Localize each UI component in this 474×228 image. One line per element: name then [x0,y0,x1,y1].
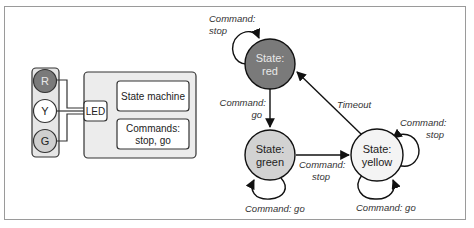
led-label: LED [86,106,105,117]
light-red: R [34,70,57,93]
state-yellow-line1: State: [363,143,392,155]
state-machine-box: State machine [117,81,189,111]
state-red-line1: State: [256,52,285,64]
commands-label-line1: Commands: [126,123,180,134]
state-machine-label: State machine [121,91,185,102]
light-red-label: R [41,75,49,87]
commands-label-line2: stop, go [135,135,171,146]
state-green-line1: State: [256,143,285,155]
label-yellow-to-red: Timeout [337,99,372,110]
label-yellow-self-stop-line1: Command: [400,117,447,128]
label-yellow-self-go: Command: go [356,202,416,213]
light-green-label: G [41,135,50,147]
label-green-to-yellow-line2: stop [312,171,330,182]
label-yellow-self-stop-line2: stop [426,129,444,140]
led-box: LED [84,101,107,121]
label-red-self-line1: Command: [209,13,256,24]
light-yellow: Y [34,100,57,123]
state-yellow-line2: yellow [362,156,393,168]
state-yellow: State: yellow [351,129,403,181]
label-red-to-green-line1: Command: [220,97,267,108]
light-yellow-label: Y [41,105,49,117]
commands-box: Commands: stop, go [117,119,189,149]
state-red: State: red [245,39,295,89]
label-red-self-line2: stop [209,25,227,36]
state-red-line2: red [262,65,278,77]
state-green: State: green [245,130,295,180]
wires [57,80,84,141]
state-green-line2: green [256,156,284,168]
label-red-to-green-line2: go [251,109,262,120]
light-green: G [34,130,57,153]
diagram-canvas: R Y G LED State machine Commands: stop, … [0,0,474,228]
transition-labels: Command: stop Command: go Timeout Comman… [209,13,447,214]
label-green-to-yellow-line1: Command: [299,159,346,170]
arrow-green-self [252,178,285,199]
label-green-self: Command: go [245,203,305,214]
